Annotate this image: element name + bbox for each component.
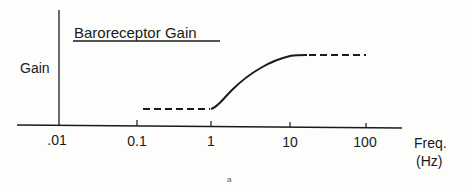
x-axis-label-unit: (Hz) bbox=[416, 154, 442, 168]
x-tick-label: .01 bbox=[47, 133, 66, 147]
y-axis-label: Gain bbox=[20, 61, 50, 75]
chart-title: Baroreceptor Gain bbox=[74, 25, 197, 40]
x-tick-label: 10 bbox=[282, 135, 298, 149]
gain-curve-solid bbox=[211, 55, 307, 109]
x-axis-label-freq: Freq. bbox=[414, 136, 447, 150]
x-tick-label: 100 bbox=[353, 135, 376, 149]
chart-canvas bbox=[0, 0, 465, 192]
x-axis-line bbox=[17, 125, 402, 128]
x-tick-label: 1 bbox=[207, 134, 215, 148]
x-tick-label: 0.1 bbox=[127, 134, 146, 148]
figure-caption: a bbox=[227, 176, 231, 184]
